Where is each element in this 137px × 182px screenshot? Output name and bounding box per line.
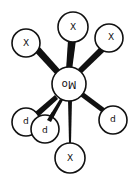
- ligand-topleft-x: X: [12, 29, 40, 57]
- atom-label: X: [67, 153, 73, 163]
- bond-to-top-x: [66, 40, 76, 70]
- atom-label: X: [108, 32, 114, 42]
- ligand-midleft-p: p: [31, 115, 59, 143]
- bond-to-bottom-x: [68, 99, 72, 143]
- atom-label: X: [23, 38, 29, 48]
- atom-label: p: [23, 117, 29, 127]
- ligand-bottom-x: X: [55, 143, 85, 173]
- atom-label: X: [70, 22, 76, 32]
- ligand-right-p: p: [99, 106, 127, 134]
- central-atom: Mo: [52, 67, 86, 101]
- molecule-diagram: X X X p p p X Mo: [0, 0, 137, 182]
- atom-label: p: [110, 115, 116, 125]
- central-atom-label: Mo: [62, 79, 77, 90]
- ligand-top-x: X: [58, 12, 88, 42]
- ligand-topright-x: X: [95, 24, 123, 52]
- atom-label: p: [42, 126, 48, 136]
